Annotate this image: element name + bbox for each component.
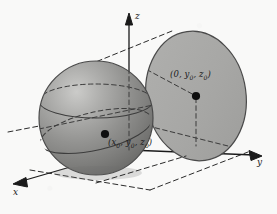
- plane-label-close: ): [208, 69, 211, 79]
- x-axis-label: x: [13, 188, 18, 197]
- x-axis-arrowhead: [13, 178, 28, 188]
- sphere-label-close: ): [149, 137, 152, 147]
- y-axis-label: y: [257, 158, 262, 167]
- plane-label-x: 0: [173, 69, 179, 79]
- z-axis-arrowhead: [125, 13, 132, 25]
- plane-center-dot: [192, 92, 200, 100]
- figure-canvas: [0, 0, 277, 214]
- geometry-figure: z y x (x0, y0, z0) (0, y0, z0): [0, 0, 277, 214]
- sphere-center-label: (x0, y0, z0): [108, 138, 152, 149]
- sphere-label-y-sub: 0: [131, 142, 135, 149]
- sphere-label-x-sub: 0: [116, 142, 120, 149]
- plane-label-y-sub: 0: [189, 74, 193, 81]
- plane-center-label: (0, y0, z0): [170, 70, 211, 81]
- z-axis-label: z: [135, 12, 140, 21]
